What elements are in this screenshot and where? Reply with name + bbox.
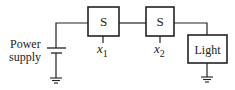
wire-s2-to-light [174,23,207,35]
switch2-input-label: x2 [153,41,165,59]
circuit-diagram: S S Light x1 x2 Power supply [0,0,235,90]
switch2-input-subscript: 2 [160,48,165,59]
light-label: Light [195,43,222,57]
wire-supply-to-s1 [56,23,88,48]
ground-icon-supply [50,78,62,83]
battery-icon [47,48,66,53]
switch2-label: S [156,14,163,29]
power-supply-label-line1: Power [10,37,41,51]
power-supply-label-line2: supply [9,50,41,64]
ground-icon-light [201,77,213,82]
switch1-input-subscript: 1 [103,48,108,59]
switch1-label: S [100,14,107,29]
switch1-input-label: x1 [96,41,108,59]
